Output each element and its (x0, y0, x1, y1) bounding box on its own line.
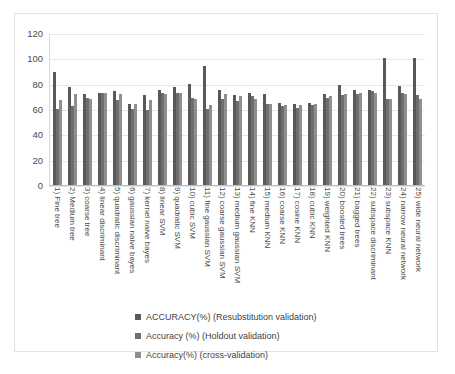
bar-group (365, 34, 380, 185)
plot-area: 020406080100120 (49, 34, 425, 186)
bar-group (245, 34, 260, 185)
bar (419, 99, 422, 185)
y-axis-tick-label: 20 (3, 156, 43, 166)
x-axis-tick-label: 9) quadratic SVM (173, 187, 181, 249)
bar (104, 93, 107, 185)
bar-group (230, 34, 245, 185)
x-axis-tick-label: 15) medium KNN (263, 187, 271, 248)
x-axis-tick: 15) medium KNN (260, 187, 275, 299)
x-axis-tick-label: 1) Fine tree (53, 187, 61, 228)
bar-group (185, 34, 200, 185)
bar-group (125, 34, 140, 185)
x-axis-tick-label: 12) coarse gaussian SVM (218, 187, 226, 279)
x-axis-tick: 12) coarse gaussian SVM (215, 187, 230, 299)
bar-group (395, 34, 410, 185)
x-axis-tick-label: 16) coarse KNN (278, 187, 286, 244)
x-axis-tick-label: 4) linear discriminant (98, 187, 106, 261)
bar (404, 94, 407, 185)
y-axis-tick-label: 40 (3, 131, 43, 141)
x-axis-tick: 21) bagged trees (350, 187, 365, 299)
x-axis-tick-label: 14) fine KNN (248, 187, 256, 233)
x-axis-tick: 24) narrow neural network (395, 187, 410, 299)
legend-label: Accuracy(%) (cross-validation) (146, 350, 268, 360)
bar-group (290, 34, 305, 185)
x-axis-tick: 5) quadratic discriminant (109, 187, 124, 299)
legend-swatch-icon (135, 352, 141, 358)
x-axis-tick: 2) Medium tree (64, 187, 79, 299)
x-axis-tick: 6) gaussian naive bayes (124, 187, 139, 299)
legend-label: Accuracy (%) (Holdout validation) (146, 331, 280, 341)
legend-label: ACCURACY(%) (Resubstitution validation) (146, 312, 317, 322)
y-axis-tick-label: 120 (3, 29, 43, 39)
bar (269, 104, 272, 185)
bar-group (350, 34, 365, 185)
x-axis-tick-label: 3) coarse tree (83, 187, 91, 236)
bar (344, 94, 347, 185)
bar (239, 96, 242, 185)
x-axis-tick: 25) wide neural network (410, 187, 425, 299)
x-axis-tick: 19) weighted KNN (320, 187, 335, 299)
x-axis-tick: 16) coarse KNN (275, 187, 290, 299)
x-axis-tick: 9) quadratic SVM (169, 187, 184, 299)
x-axis-tick: 1) Fine tree (49, 187, 64, 299)
y-axis-tick-label: 60 (3, 105, 43, 115)
bar-group (380, 34, 395, 185)
x-axis-tick-label: 2) Medium tree (68, 187, 76, 241)
chart-legend: ACCURACY(%) (Resubstitution validation)A… (135, 312, 317, 360)
x-axis-tick-label: 5) quadratic discriminant (113, 187, 121, 274)
bar-group (410, 34, 425, 185)
bar-group (110, 34, 125, 185)
y-axis-tick-label: 80 (3, 80, 43, 90)
bar-group (260, 34, 275, 185)
x-axis-tick: 3) coarse tree (79, 187, 94, 299)
x-axis-tick-labels: 1) Fine tree2) Medium tree3) coarse tree… (49, 187, 425, 299)
bar-group (275, 34, 290, 185)
x-axis-tick: 11) fine gaussian SVM (199, 187, 214, 299)
bar-group (215, 34, 230, 185)
bar-group (140, 34, 155, 185)
y-axis-tick-label: 100 (3, 55, 43, 65)
x-axis-tick: 10) cubic SVM (184, 187, 199, 299)
x-axis-tick-label: 22) subspace discriminant (369, 187, 377, 280)
x-axis-tick: 13) medium gaussian SVM (230, 187, 245, 299)
x-axis-tick-label: 13) medium gaussian SVM (233, 187, 241, 283)
bar (74, 94, 77, 185)
x-axis-tick-label: 20) boosted trees (338, 187, 346, 249)
x-axis-tick-label: 6) gaussian naive bayes (128, 187, 136, 273)
bar-group (50, 34, 65, 185)
bar-group (65, 34, 80, 185)
bar (119, 94, 122, 185)
bar (329, 96, 332, 185)
bar (194, 99, 197, 185)
bar-group (155, 34, 170, 185)
x-axis-tick: 18) cubic KNN (305, 187, 320, 299)
bar (374, 93, 377, 185)
bar-group (200, 34, 215, 185)
bar (164, 94, 167, 185)
bar (134, 104, 137, 185)
x-axis-tick: 22) subspace discriminant (365, 187, 380, 299)
legend-item[interactable]: Accuracy(%) (cross-validation) (135, 350, 317, 360)
bar (359, 93, 362, 185)
x-axis-tick-label: 8) linear SVM (158, 187, 166, 235)
legend-swatch-icon (135, 333, 141, 339)
bar (209, 105, 212, 185)
legend-item[interactable]: ACCURACY(%) (Resubstitution validation) (135, 312, 317, 322)
bar (299, 105, 302, 185)
bar (224, 94, 227, 185)
bar (314, 104, 317, 185)
bar (284, 105, 287, 185)
x-axis-tick-label: 23) subspace KNN (384, 187, 392, 254)
x-axis-tick-label: 7) kernel naive bayes (143, 187, 151, 263)
bar-group (170, 34, 185, 185)
x-axis-tick: 17) cosine KNN (290, 187, 305, 299)
x-axis-tick-label: 11) fine gaussian SVM (203, 187, 211, 267)
x-axis-tick: 14) fine KNN (245, 187, 260, 299)
bar (59, 100, 62, 185)
legend-item[interactable]: Accuracy (%) (Holdout validation) (135, 331, 317, 341)
x-axis-tick: 8) linear SVM (154, 187, 169, 299)
bar-group (335, 34, 350, 185)
bar (179, 93, 182, 185)
bar-group (320, 34, 335, 185)
bar (254, 99, 257, 185)
